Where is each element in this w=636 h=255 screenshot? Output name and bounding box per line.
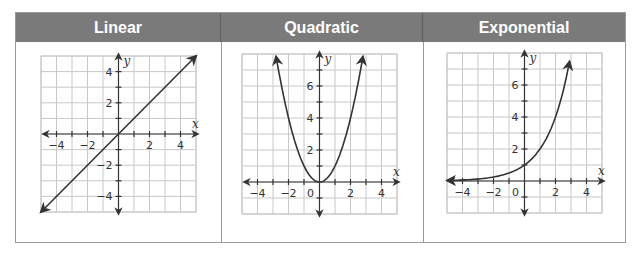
x-tick-label: 4 <box>583 186 590 199</box>
y-tick-label: 2 <box>106 97 113 110</box>
x-tick-label: 2 <box>552 186 559 199</box>
y-tick-label: 4 <box>307 112 314 125</box>
x-tick-label: 0 <box>512 186 519 199</box>
exponential-graph: −4−2024642xy <box>447 51 605 215</box>
y-tick-label: 6 <box>512 79 519 92</box>
x-tick-label: 4 <box>378 187 385 200</box>
x-tick-label: −2 <box>485 186 501 199</box>
graphs-layer: −4−22442−2−4xy −4−2024642xy −4−2024642xy <box>0 0 636 255</box>
function-curve <box>447 62 570 181</box>
x-axis-label: x <box>598 164 605 178</box>
x-axis-label: x <box>192 117 199 131</box>
x-axis-label: x <box>393 165 400 179</box>
x-tick-label: −2 <box>79 139 95 152</box>
x-tick-label: −4 <box>454 186 470 199</box>
linear-graph: −4−22442−2−4xy <box>41 54 199 214</box>
y-axis-label: y <box>324 52 332 66</box>
y-tick-label: 4 <box>512 111 519 124</box>
x-tick-label: −2 <box>280 187 296 200</box>
x-tick-label: 2 <box>146 139 153 152</box>
x-tick-label: 0 <box>307 187 314 200</box>
x-tick-label: −4 <box>249 187 265 200</box>
y-tick-label: −2 <box>96 159 112 172</box>
y-tick-label: 6 <box>307 80 314 93</box>
y-tick-label: 2 <box>512 143 519 156</box>
y-tick-label: 4 <box>106 66 113 79</box>
x-tick-label: 4 <box>177 139 184 152</box>
x-tick-label: −4 <box>48 139 64 152</box>
y-axis-label: y <box>529 51 537 65</box>
y-tick-label: 2 <box>307 144 314 157</box>
quadratic-graph: −4−2024642xy <box>242 52 400 216</box>
y-tick-label: −4 <box>96 190 112 203</box>
x-tick-label: 2 <box>347 187 354 200</box>
y-axis-label: y <box>123 54 131 68</box>
